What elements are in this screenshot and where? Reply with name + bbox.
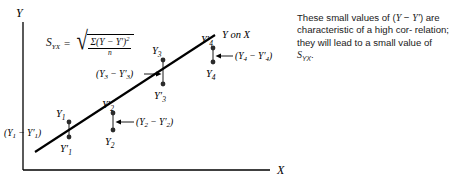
observed-point-4 xyxy=(211,60,216,65)
predicted-label-1: Y′1 xyxy=(60,143,72,157)
figure-container: Y X Y on X Y1 Y′1 (Y1 − Y′1) Y′2 Y2 ( xyxy=(0,0,457,189)
radical-sign-icon: √ xyxy=(77,30,88,56)
caption-line-1: These small values of (Y − Y′) xyxy=(297,12,423,23)
residual-label-4: (Y4 − Y′4) xyxy=(235,51,272,63)
formula-radical: √ Σ(Y − Y′)2 n xyxy=(75,31,134,57)
observed-label-4: Y4 xyxy=(206,68,216,82)
y-axis-label: Y xyxy=(16,6,24,20)
formula-fraction: Σ(Y − Y′)2 n xyxy=(88,36,131,57)
observed-label-1: Y1 xyxy=(56,108,66,122)
residual-label-3: (Y3 − Y′3) xyxy=(96,69,133,81)
x-axis-label: X xyxy=(276,163,285,177)
predicted-label-4: Y′4 xyxy=(201,34,213,48)
formula-denominator: n xyxy=(108,49,112,57)
predicted-point-1 xyxy=(67,135,72,140)
formula-lhs: SYX xyxy=(46,37,60,51)
regression-line-label: Y on X xyxy=(222,29,251,40)
observed-label-2: Y2 xyxy=(105,136,115,150)
caption-text: These small values of (Y − Y′) are chara… xyxy=(297,12,449,66)
formula-radicand: Σ(Y − Y′)2 n xyxy=(87,34,134,57)
residual-label-2: (Y2 − Y′2) xyxy=(136,117,173,129)
formula-numerator: Σ(Y − Y′)2 xyxy=(88,36,131,48)
residual-arrowhead-2 xyxy=(116,120,122,125)
residual-arrowhead-4 xyxy=(216,54,222,59)
observed-point-2 xyxy=(111,128,116,133)
predicted-label-3: Y′3 xyxy=(154,90,166,104)
standard-error-formula: SYX = √ Σ(Y − Y′)2 n xyxy=(46,31,134,57)
observed-point-1 xyxy=(67,120,72,125)
formula-equals: = xyxy=(64,38,70,49)
predicted-point-3 xyxy=(161,82,166,87)
observed-label-3: Y3 xyxy=(152,45,162,59)
